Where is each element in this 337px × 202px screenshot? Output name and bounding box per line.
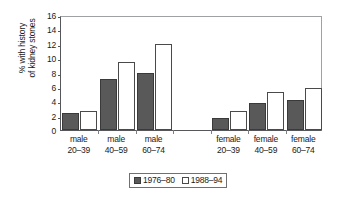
legend-swatch-icon (134, 177, 141, 184)
x-category-label-line-1: male (131, 134, 176, 145)
y-tick-label: 2 (34, 112, 56, 121)
bar (287, 100, 304, 130)
y-axis-tick-labels: 0246810121416 (34, 16, 56, 131)
bar (212, 118, 229, 130)
bars-layer (61, 17, 321, 130)
bar-group (98, 17, 135, 130)
bar-group (61, 17, 98, 130)
y-tick-mark (58, 118, 61, 119)
x-category-label: female60–74 (281, 134, 326, 156)
y-tick-mark (58, 75, 61, 76)
bar-group (286, 17, 323, 130)
bar (62, 113, 79, 130)
y-tick-mark (58, 17, 61, 18)
kidney-stones-bar-chart: % with history of kidney stones 02468101… (0, 0, 337, 202)
bar-group (248, 17, 285, 130)
legend-entry: 1988–94 (182, 176, 223, 185)
y-tick-mark (58, 60, 61, 61)
y-tick-mark (58, 103, 61, 104)
chart-legend: 1976–801988–94 (129, 173, 227, 188)
x-category-label-line-2: 60–74 (281, 145, 326, 156)
bar (118, 62, 135, 130)
bar (249, 103, 266, 130)
bar (305, 88, 322, 130)
bar (230, 111, 247, 130)
y-tick-mark (58, 31, 61, 32)
y-tick-label: 10 (34, 55, 56, 64)
x-axis-category-labels: male20–39male40–59male60–74female20–39fe… (60, 134, 322, 160)
bar-group (136, 17, 173, 130)
y-axis-title-line-1: % with history (17, 23, 27, 73)
y-tick-label: 8 (34, 69, 56, 78)
x-category-label: male60–74 (131, 134, 176, 156)
bar (267, 92, 284, 130)
y-tick-label: 6 (34, 84, 56, 93)
x-category-label-line-2: 60–74 (131, 145, 176, 156)
y-tick-label: 0 (34, 127, 56, 136)
legend-label: 1988–94 (191, 176, 223, 185)
y-tick-label: 12 (34, 41, 56, 50)
y-tick-mark (58, 46, 61, 47)
legend-swatch-icon (182, 177, 189, 184)
bar-group (211, 17, 248, 130)
bar-group (173, 17, 210, 130)
y-tick-label: 14 (34, 26, 56, 35)
plot-area (60, 16, 322, 131)
y-tick-label: 4 (34, 98, 56, 107)
bar (100, 79, 117, 130)
legend-entry: 1976–80 (134, 176, 175, 185)
bar (155, 44, 172, 130)
x-category-label-line-1: female (281, 134, 326, 145)
y-tick-mark (58, 89, 61, 90)
y-tick-label: 16 (34, 12, 56, 21)
legend-label: 1976–80 (143, 176, 175, 185)
bar (137, 73, 154, 130)
bar (80, 111, 97, 130)
